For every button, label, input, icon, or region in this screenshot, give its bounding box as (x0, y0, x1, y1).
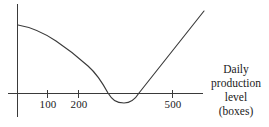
figure-container: 100 200 500 Daily production level (boxe… (0, 0, 269, 127)
cost-curve (18, 11, 204, 103)
x-axis-caption-line-1: Daily (203, 62, 269, 76)
x-tick-label-500: 500 (161, 99, 185, 110)
x-axis-caption-line-2: production (203, 76, 269, 90)
x-tick-label-200: 200 (67, 99, 91, 110)
x-axis-caption: Daily production level (boxes) (203, 62, 269, 118)
x-tick-label-100: 100 (36, 99, 60, 110)
x-axis-caption-line-3: level (203, 90, 269, 104)
x-axis-caption-line-4: (boxes) (203, 104, 269, 118)
